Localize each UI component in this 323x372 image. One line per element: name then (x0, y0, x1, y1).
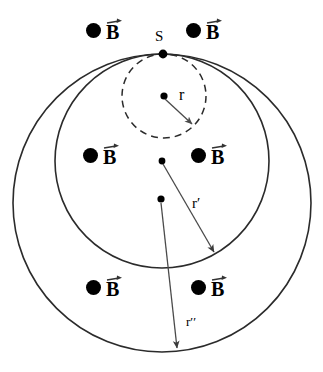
b-vector-symbol: B (106, 18, 119, 42)
field-vector-top-right: B (186, 18, 219, 42)
vector-arrow-icon (206, 18, 222, 26)
dashed-circle-center-dot (160, 92, 167, 99)
outer-circle-center-dot (157, 195, 164, 202)
physics-diagram: S r r′ r′′ B B (0, 0, 323, 372)
b-vector-symbol: B (211, 143, 224, 167)
field-source-dot (191, 148, 206, 163)
inner-circle-center-dot (159, 158, 166, 165)
b-vector-symbol: B (103, 143, 116, 167)
b-vector-symbol: B (211, 275, 224, 299)
vector-arrow-icon (103, 143, 119, 151)
field-vector-bottom-left: B (86, 275, 119, 299)
field-vector-middle-right: B (191, 143, 224, 167)
diagram-canvas (0, 0, 323, 372)
field-vector-bottom-right: B (191, 275, 224, 299)
field-source-dot (86, 280, 101, 295)
label-source-point: S (155, 28, 163, 45)
label-radius-r: r (179, 86, 184, 104)
vector-arrow-icon (211, 275, 227, 283)
r-prime-radius-arrow (163, 164, 214, 252)
b-vector-symbol: B (206, 18, 219, 42)
label-radius-r-double-prime: r′′ (186, 314, 196, 330)
vector-arrow-icon (106, 18, 122, 26)
tangent-point-s-dot (159, 50, 168, 59)
label-radius-r-prime: r′ (192, 195, 200, 212)
vector-arrow-icon (106, 275, 122, 283)
b-vector-symbol: B (106, 275, 119, 299)
r-double-prime-radius-arrow (161, 203, 177, 348)
field-source-dot (83, 148, 98, 163)
field-source-dot (191, 280, 206, 295)
field-source-dot (186, 23, 201, 38)
field-vector-top-left: B (86, 18, 119, 42)
field-source-dot (86, 23, 101, 38)
field-vector-middle-left: B (83, 143, 116, 167)
vector-arrow-icon (211, 143, 227, 151)
